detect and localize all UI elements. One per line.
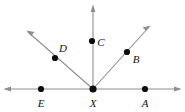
arrowhead-left [4, 87, 12, 92]
rays-group [5, 7, 180, 89]
point-dot-C [89, 38, 95, 44]
point-dot-E [38, 86, 44, 92]
point-dot-X [89, 85, 96, 92]
point-label-C: C [97, 37, 104, 48]
arrowhead-upper-left [26, 31, 34, 36]
point-dot-B [124, 49, 130, 55]
geometry-canvas [0, 0, 185, 112]
geometry-diagram: A B C D E X [0, 0, 185, 112]
point-label-E: E [38, 98, 45, 109]
point-label-A: A [142, 98, 149, 109]
arrowhead-right [174, 87, 182, 92]
point-dot-D [52, 55, 58, 61]
point-dot-A [142, 86, 148, 92]
point-label-D: D [59, 43, 67, 54]
point-label-B: B [133, 54, 140, 65]
arrowhead-up [91, 5, 96, 13]
point-label-X: X [90, 98, 97, 109]
arrowhead-upper-right [143, 26, 151, 32]
